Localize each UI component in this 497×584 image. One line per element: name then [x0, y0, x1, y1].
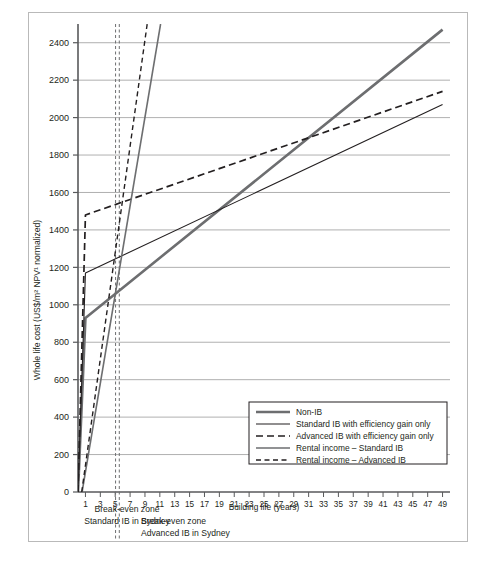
x-tick-label: 47: [423, 500, 433, 509]
y-tick-label: 1200: [49, 263, 69, 273]
x-tick-label: 41: [378, 500, 388, 509]
x-tick-label: 35: [334, 500, 344, 509]
y-axis-ticks: 0200400600800100012001400160018002000220…: [49, 38, 78, 497]
annotation-advanced-line1: Break-even zone: [141, 516, 206, 526]
x-tick-label: 13: [170, 500, 180, 509]
legend-label-4: Rental income – Advanced IB: [296, 455, 406, 465]
y-tick-label: 2200: [49, 75, 69, 85]
y-tick-label: 1600: [49, 188, 69, 198]
y-tick-label: 0: [64, 487, 69, 497]
x-tick-label: 49: [438, 500, 448, 509]
x-tick-label: 15: [185, 500, 195, 509]
y-tick-label: 2000: [49, 113, 69, 123]
y-tick-label: 1800: [49, 150, 69, 160]
gridlines: [78, 43, 450, 455]
x-tick-label: 45: [408, 500, 418, 509]
legend-label-3: Rental income – Standard IB: [296, 443, 403, 453]
y-tick-label: 2400: [49, 38, 69, 48]
chart-canvas: 0200400600800100012001400160018002000220…: [0, 0, 497, 584]
x-tick-label: 39: [364, 500, 374, 509]
y-tick-label: 1400: [49, 225, 69, 235]
y-axis-title: Whole life cost (US$/m² NPV¹ normalized): [32, 220, 42, 381]
x-tick-label: 19: [215, 500, 225, 509]
y-tick-label: 1000: [49, 300, 69, 310]
x-tick-label: 17: [200, 500, 210, 509]
chart-svg: 0200400600800100012001400160018002000220…: [0, 0, 497, 584]
series-line-4: [82, 24, 147, 492]
legend-label-2: Advanced IB with efficiency gain only: [296, 431, 434, 441]
chart-page: 0200400600800100012001400160018002000220…: [0, 0, 497, 584]
legend: Non-IBStandard IB with efficiency gain o…: [249, 402, 447, 465]
annotation-standard-line1: Break-even zone: [95, 504, 160, 514]
legend-label-1: Standard IB with efficiency gain only: [296, 419, 431, 429]
y-tick-label: 800: [54, 337, 69, 347]
annotation-advanced-line2: Advanced IB in Sydney: [141, 528, 231, 538]
series-line-3: [82, 24, 160, 492]
y-tick-label: 200: [54, 450, 69, 460]
legend-label-0: Non-IB: [296, 407, 322, 417]
y-tick-label: 400: [54, 412, 69, 422]
x-tick-label: 37: [349, 500, 359, 509]
x-tick-label: 33: [319, 500, 329, 509]
x-tick-label: 1: [83, 500, 88, 509]
x-tick-label: 31: [304, 500, 314, 509]
annotation-advanced: Break-even zone Advanced IB in Sydney: [141, 516, 231, 538]
x-axis-title: Building life (years): [229, 502, 300, 512]
x-tick-label: 43: [393, 500, 403, 509]
y-tick-label: 600: [54, 375, 69, 385]
